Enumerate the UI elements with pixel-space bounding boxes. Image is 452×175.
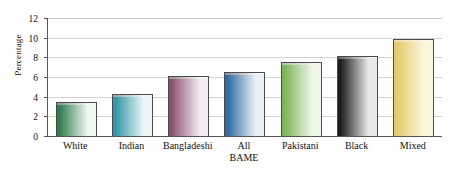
y-axis-tick-label: 6 (33, 73, 38, 83)
y-axis-tick-label: 2 (33, 112, 38, 122)
bar-black[interactable] (337, 56, 378, 136)
y-axis-tick-label: 12 (29, 14, 39, 24)
bar-slot (161, 18, 217, 136)
x-axis-label-line: All (238, 140, 251, 151)
bar-all-bame[interactable] (224, 72, 265, 136)
x-axis-label-line: BAME (216, 152, 272, 164)
x-axis-label-line: Pakistani (282, 140, 319, 151)
bar-slot (104, 18, 160, 136)
x-axis-label-black: Black (328, 140, 384, 164)
bar-slot (217, 18, 273, 136)
x-axis-label-line: White (63, 140, 87, 151)
bar-white[interactable] (56, 102, 97, 136)
x-axis-label-mixed: Mixed (385, 140, 441, 164)
y-axis-tick-label: 8 (33, 53, 38, 63)
plot-area: 024681012 (47, 18, 442, 137)
x-axis-categories: WhiteIndianBangladeshiAllBAMEPakistaniBl… (47, 140, 441, 164)
bar-mixed[interactable] (393, 39, 434, 136)
bar-slot (329, 18, 385, 136)
y-axis-tick-label: 10 (29, 34, 39, 44)
bar-pakistani[interactable] (281, 62, 322, 136)
y-axis-tick-label: 4 (33, 93, 38, 103)
bar-slot (386, 18, 442, 136)
y-axis-tick: 0 (44, 136, 48, 137)
x-axis-label-pakistani: Pakistani (272, 140, 328, 164)
x-axis-label-white: White (47, 140, 103, 164)
x-axis-label-all-bame: AllBAME (216, 140, 272, 164)
bar-bangladeshi[interactable] (168, 76, 209, 136)
bar-chart: Percentage 024681012 WhiteIndianBanglade… (0, 0, 452, 175)
bar-slot (273, 18, 329, 136)
x-axis-label-line: Black (345, 140, 368, 151)
bar-slot (48, 18, 104, 136)
bar-series (48, 18, 442, 136)
x-axis-label-line: Bangladeshi (163, 140, 212, 151)
x-axis-label-line: Mixed (400, 140, 426, 151)
x-axis-label-line: Indian (119, 140, 145, 151)
bar-indian[interactable] (112, 94, 153, 136)
y-axis-title: Percentage (13, 9, 23, 101)
x-axis-label-indian: Indian (103, 140, 159, 164)
y-axis-tick-label: 0 (33, 132, 38, 142)
x-axis-label-bangladeshi: Bangladeshi (160, 140, 216, 164)
